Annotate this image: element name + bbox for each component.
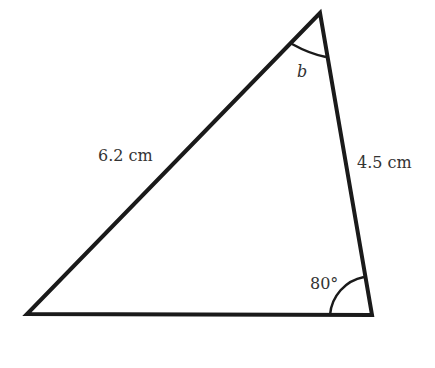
triangle xyxy=(27,13,372,315)
side-label-4-5cm: 4.5 cm xyxy=(357,153,412,172)
triangle-diagram: b 80° 6.2 cm 4.5 cm xyxy=(0,0,435,368)
angle-arc-top xyxy=(292,44,326,57)
side-label-6-2cm: 6.2 cm xyxy=(98,146,153,165)
angle-label-80: 80° xyxy=(310,274,338,293)
angle-label-b: b xyxy=(297,62,307,81)
